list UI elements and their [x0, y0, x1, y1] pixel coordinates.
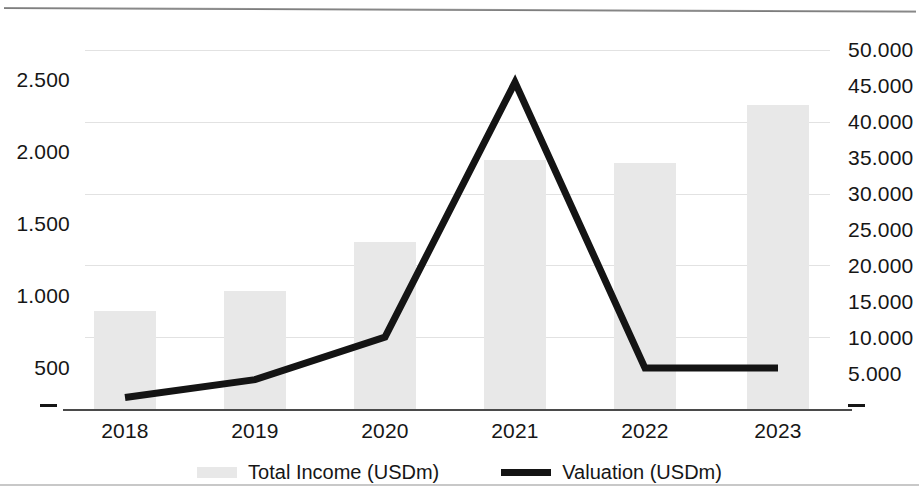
valuation-line-series	[85, 30, 830, 409]
left-axis: 2.500 2.000 1.500 1.000 500	[0, 30, 70, 409]
left-axis-tick-500: 500	[34, 357, 70, 378]
left-axis-tick-2000: 2.000	[16, 141, 70, 162]
x-axis-label-2021: 2021	[470, 419, 560, 443]
chart-container: 2.500 2.000 1.500 1.000 500 50.000 45.00…	[0, 0, 919, 489]
x-axis: 2018 2019 2020 2021 2022 2023	[85, 419, 830, 449]
right-axis-tick-25000: 25.000	[848, 219, 913, 240]
right-axis-tick-50000: 50.000	[848, 39, 913, 60]
line-swatch-icon	[501, 469, 551, 476]
x-axis-line	[63, 409, 852, 411]
x-axis-label-2019: 2019	[210, 419, 300, 443]
legend-label-total-income: Total Income (USDm)	[248, 461, 439, 483]
x-axis-label-2020: 2020	[340, 419, 430, 443]
right-axis-tick-10000: 10.000	[848, 327, 913, 348]
right-axis-tick-40000: 40.000	[848, 111, 913, 132]
x-axis-label-2022: 2022	[600, 419, 690, 443]
chart-legend: Total Income (USDm) Valuation (USDm)	[0, 458, 919, 486]
right-axis-tick-30000: 30.000	[848, 183, 913, 204]
right-axis-tick-15000: 15.000	[848, 291, 913, 312]
right-axis-tick-35000: 35.000	[848, 147, 913, 168]
left-axis-tick-zero	[40, 404, 57, 407]
legend-item-valuation[interactable]: Valuation (USDm)	[501, 461, 722, 483]
left-axis-tick-2500: 2.500	[16, 69, 70, 90]
left-axis-tick-1500: 1.500	[16, 213, 70, 234]
x-axis-label-2018: 2018	[80, 419, 170, 443]
x-axis-label-2023: 2023	[733, 419, 823, 443]
bar-swatch-icon	[197, 467, 237, 478]
right-axis-tick-20000: 20.000	[848, 255, 913, 276]
right-axis: 50.000 45.000 40.000 35.000 30.000 25.00…	[848, 30, 919, 409]
right-axis-tick-45000: 45.000	[848, 75, 913, 96]
right-axis-tick-zero	[848, 404, 865, 407]
plot-area	[85, 30, 830, 409]
page-bottom-divider	[0, 484, 919, 486]
left-axis-tick-1000: 1.000	[16, 285, 70, 306]
right-axis-tick-5000: 5.000	[848, 363, 902, 384]
legend-label-valuation: Valuation (USDm)	[562, 461, 722, 483]
legend-item-total-income[interactable]: Total Income (USDm)	[197, 461, 439, 483]
page-top-divider	[4, 7, 916, 13]
